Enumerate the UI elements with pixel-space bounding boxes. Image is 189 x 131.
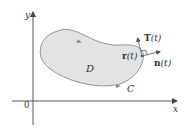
position-arg: (t) xyxy=(127,51,138,61)
y-axis-label: y xyxy=(24,10,31,20)
normal-vector xyxy=(142,52,160,57)
region-label: D xyxy=(85,63,94,74)
normal-arg: (t) xyxy=(161,58,172,68)
curve-label: C xyxy=(127,83,135,94)
region-boundary-diagram: y x 0 T(t) r(t) n(t) D C xyxy=(0,0,189,131)
x-axis-label: x xyxy=(173,104,178,114)
position-label: r(t) xyxy=(122,51,138,61)
tangent-label: T(t) xyxy=(144,33,162,43)
normal-label: n(t) xyxy=(154,58,172,68)
tangent-arg: (t) xyxy=(151,33,162,43)
origin-label: 0 xyxy=(24,100,29,110)
